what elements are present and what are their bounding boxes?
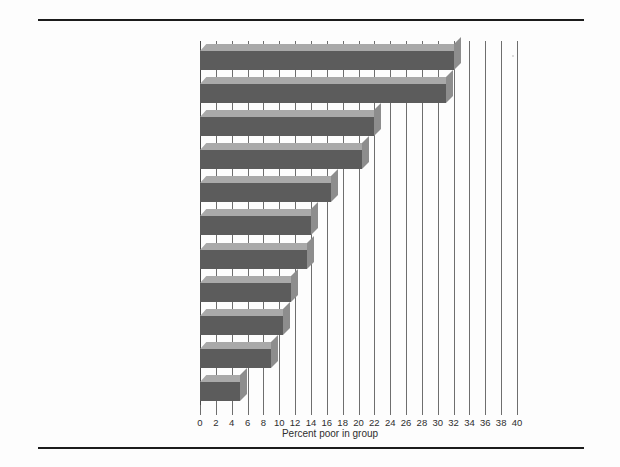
bar-face: [200, 349, 271, 368]
tick-26: [406, 405, 407, 415]
bar-top-face: [200, 209, 317, 216]
bar-top-face: [200, 342, 278, 349]
bar: [200, 382, 240, 401]
tick-12: [295, 405, 296, 415]
tick-38: [501, 405, 502, 415]
tick-32: [454, 405, 455, 415]
bar-top-face: [200, 77, 452, 84]
bar-face: [200, 51, 454, 70]
bottom-rule: [38, 447, 584, 449]
bar-row: Blacks: [200, 74, 517, 107]
x-axis-title: Percent poor in group: [0, 428, 620, 439]
bar: [200, 250, 307, 269]
x-axis-title-text: Percent poor in group: [282, 428, 378, 439]
bar: [200, 316, 283, 335]
bar-top-face: [200, 176, 337, 183]
bar-row: Residence inside metropolitan area: [200, 306, 517, 339]
bar-side-face: [454, 37, 461, 70]
tick-10: [279, 405, 280, 415]
bar-top-face: [200, 276, 297, 283]
bar: [200, 283, 291, 302]
tick-20: [359, 405, 360, 415]
bar: [200, 84, 446, 103]
tick-2: [216, 405, 217, 415]
tick-22: [374, 405, 375, 415]
bar-side-face: [283, 302, 290, 335]
tick-40: [517, 405, 518, 415]
bar-row: Unrelated individuals: [200, 107, 517, 140]
tick-label-40: 40: [505, 417, 529, 428]
bar-row: All persons: [200, 273, 517, 306]
bar-top-face: [200, 44, 460, 51]
tick-16: [327, 405, 328, 415]
bar: [200, 183, 331, 202]
bar-top-face: [200, 243, 313, 250]
bar-face: [200, 150, 362, 169]
bar-row: Residence outside metropolitan area: [200, 240, 517, 273]
tick-24: [390, 405, 391, 415]
bar-face: [200, 216, 311, 235]
bar-face: [200, 316, 283, 335]
bar-row: Husband-wife families: [200, 372, 517, 405]
bar-face: [200, 183, 331, 202]
top-rule: [38, 19, 584, 21]
bar-top-face: [200, 110, 381, 117]
bar-face: [200, 84, 446, 103]
tick-4: [232, 405, 233, 415]
paper-speck: [512, 55, 514, 57]
bar-face: [200, 382, 240, 401]
bar-side-face: [240, 368, 247, 401]
bar-face: [200, 250, 307, 269]
plot-area: Persons in female headed familiesBlacksU…: [200, 41, 517, 405]
tick-30: [438, 405, 439, 415]
bar: [200, 117, 374, 136]
tick-36: [485, 405, 486, 415]
bar-top-face: [200, 143, 369, 150]
bar-row: Whites: [200, 339, 517, 372]
bar-side-face: [374, 103, 381, 136]
bar-side-face: [446, 70, 453, 103]
bar: [200, 349, 271, 368]
bar: [200, 150, 362, 169]
bar-side-face: [311, 202, 318, 235]
tick-0: [200, 405, 201, 415]
bar-row: Children, less than 14: [200, 173, 517, 206]
tick-18: [343, 405, 344, 415]
tick-8: [263, 405, 264, 415]
chart-figure: Persons in female headed familiesBlacksU…: [0, 0, 620, 467]
bar-row: Elderly: [200, 206, 517, 239]
bar-side-face: [307, 236, 314, 269]
tick-28: [422, 405, 423, 415]
bar-row: Persons of Spanish origin: [200, 140, 517, 173]
bar-face: [200, 283, 291, 302]
tick-14: [311, 405, 312, 415]
bar-side-face: [291, 269, 298, 302]
tick-34: [469, 405, 470, 415]
bar-row: Persons in female headed families: [200, 41, 517, 74]
bar-top-face: [200, 309, 290, 316]
bar-face: [200, 117, 374, 136]
bar: [200, 216, 311, 235]
bar-side-face: [271, 335, 278, 368]
tick-6: [248, 405, 249, 415]
bar: [200, 51, 454, 70]
bar-side-face: [331, 169, 338, 202]
gridline-40: [517, 41, 518, 405]
bar-side-face: [362, 136, 369, 169]
